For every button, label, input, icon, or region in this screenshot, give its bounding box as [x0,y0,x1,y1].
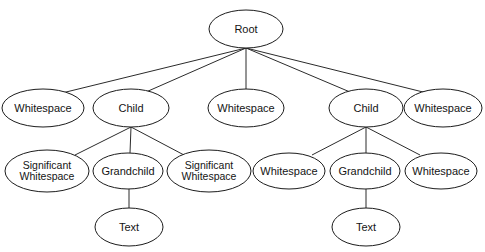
node-grandchild-left[interactable]: Grandchild [93,153,163,189]
node-label-line: Whitespace [414,101,471,113]
node-child-right[interactable]: Child [329,89,403,127]
node-label-ws-l4: Whitespace [260,164,317,176]
node-ws-l2[interactable]: Whitespace [208,89,284,127]
node-label-text-left: Text [119,220,139,232]
node-root[interactable]: Root [209,10,283,48]
node-label-line: Root [234,22,257,34]
node-label-line: Child [118,101,143,113]
node-label-line: Text [119,220,139,232]
node-label-child-left: Child [118,101,143,113]
node-label-ws-l1: Whitespace [14,101,71,113]
node-ws-l5[interactable]: Whitespace [405,153,477,189]
node-ws-l3[interactable]: Whitespace [404,89,482,127]
node-label-line: Whitespace [260,164,317,176]
node-label-ws-l5: Whitespace [412,164,469,176]
node-label-line: Whitespace [217,101,274,113]
node-label-ws-l2: Whitespace [217,101,274,113]
node-sigws-1[interactable]: SignificantWhitespace [5,150,89,192]
node-grandchild-right[interactable]: Grandchild [330,153,400,189]
node-label-sigws-1: SignificantWhitespace [20,158,75,181]
node-label-text-right: Text [356,220,376,232]
node-label-line: Grandchild [101,164,154,176]
node-tree-diagram: RootWhitespaceChildWhitespaceChildWhites… [0,0,485,252]
node-sigws-2[interactable]: SignificantWhitespace [167,150,251,192]
node-label-line: Whitespace [20,169,75,181]
node-text-right[interactable]: Text [332,208,400,246]
node-label-line: Whitespace [182,169,237,181]
node-label-sigws-2: SignificantWhitespace [182,158,237,181]
node-label-ws-l3: Whitespace [414,101,471,113]
node-ws-l4[interactable]: Whitespace [253,153,325,189]
node-ws-l1[interactable]: Whitespace [2,89,84,127]
node-label-root: Root [234,22,257,34]
node-child-left[interactable]: Child [93,89,169,127]
node-label-line: Text [356,220,376,232]
node-label-line: Whitespace [14,101,71,113]
node-text-left[interactable]: Text [95,208,163,246]
node-label-grandchild-right: Grandchild [338,164,391,176]
node-label-line: Grandchild [338,164,391,176]
node-label-line: Whitespace [412,164,469,176]
node-label-line: Child [353,101,378,113]
node-label-child-right: Child [353,101,378,113]
node-label-grandchild-left: Grandchild [101,164,154,176]
